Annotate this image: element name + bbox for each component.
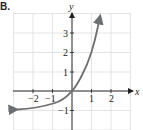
graph: B. y x −2 −1 1 2 −1 1 2 3 [0,0,143,130]
problem-label: B. [0,1,10,12]
y-tick-label: 1 [63,67,68,78]
x-tick-label: −1 [45,93,56,104]
x-tick-label: 1 [89,93,94,104]
x-tick-label: 2 [109,93,114,104]
y-axis-label: y [68,1,74,12]
x-axis-label: x [134,86,140,97]
y-tick-label: 2 [63,47,68,58]
y-tick-label: 3 [63,28,68,39]
y-tick-label: −1 [58,105,69,116]
x-tick-label: −2 [28,93,39,104]
